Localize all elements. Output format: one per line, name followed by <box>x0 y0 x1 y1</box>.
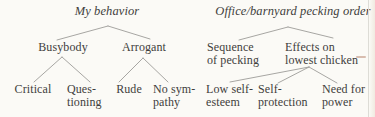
edge-busybody-critical <box>34 57 62 82</box>
edge-arrogant-nosympathy <box>143 58 168 82</box>
node-busybody: Busybody <box>38 41 87 54</box>
edge-effects-selfprotection <box>278 67 309 83</box>
node-pecking-order-title: Office/barnyard pecking order <box>215 5 370 18</box>
node-need-for-power: Need for power <box>322 83 365 108</box>
node-low-self-esteem: Low self- esteem <box>206 83 253 108</box>
node-self-protection: Self- protection <box>258 83 308 108</box>
node-effects-on-lowest-chicken: Effects on lowest chicken <box>285 41 358 66</box>
edge-effects-needforpower <box>309 67 337 83</box>
node-questioning: Ques- tioning <box>67 83 102 108</box>
red-mark-artifact <box>356 56 366 58</box>
edge-peckingorder-effects <box>288 27 333 38</box>
edge-arrogant-rude <box>119 58 143 82</box>
edge-effects-lowselfesteem <box>230 67 309 82</box>
node-my-behavior-title: My behavior <box>75 5 140 18</box>
node-critical: Critical <box>15 83 52 96</box>
edge-mybehavior-busybody <box>57 26 108 40</box>
node-no-sympathy: No sym- pathy <box>153 83 195 108</box>
node-rude: Rude <box>116 83 142 96</box>
page-edge-shading <box>369 0 375 117</box>
node-sequence-of-pecking: Sequence of pecking <box>207 41 259 66</box>
node-arrogant: Arrogant <box>122 41 166 54</box>
edge-mybehavior-arrogant <box>108 26 150 39</box>
edge-busybody-questioning <box>62 57 90 82</box>
edge-peckingorder-sequence <box>239 27 288 40</box>
tree-diagram-canvas: My behavior Busybody Arrogant Critical Q… <box>0 0 375 117</box>
